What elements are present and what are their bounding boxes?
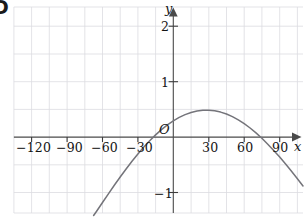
x-tick-label--120: −120 — [16, 140, 51, 155]
x-tick-label--90: −90 — [56, 140, 83, 155]
origin-label: O — [159, 122, 170, 137]
x-tick-label--30: −30 — [126, 140, 153, 155]
figure-container: D — [0, 0, 307, 221]
y-axis — [169, 8, 178, 214]
x-tick-label-60: 60 — [237, 140, 253, 155]
x-tick-label-30: 30 — [202, 140, 218, 155]
cosine-curve — [94, 110, 303, 215]
y-axis-name: y — [165, 1, 172, 16]
x-tick-label-90: 90 — [272, 140, 288, 155]
x-tick-label--60: −60 — [91, 140, 118, 155]
grid-lines — [14, 7, 303, 213]
y-tick-label-1: 1 — [161, 75, 169, 90]
x-axis-name: x — [294, 139, 301, 154]
y-tick-label-2: 2 — [161, 19, 169, 34]
y-tick-label--1: −1 — [154, 186, 173, 201]
